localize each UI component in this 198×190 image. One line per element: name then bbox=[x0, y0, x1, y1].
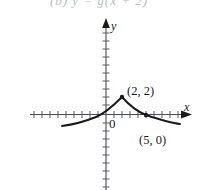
point-label-peak: (2, 2) bbox=[127, 85, 154, 98]
graph-canvas bbox=[0, 0, 198, 190]
y-axis-label: y bbox=[111, 20, 116, 32]
x-axis-label: x bbox=[184, 101, 189, 113]
point-marker-peak bbox=[120, 95, 124, 99]
y-axis-arrowhead bbox=[102, 18, 110, 28]
origin-label: 0 bbox=[109, 117, 116, 130]
point-marker-root bbox=[144, 113, 148, 117]
curve-right-branch bbox=[122, 97, 180, 124]
point-label-root: (5, 0) bbox=[139, 134, 166, 147]
figure-panel: (b) y = g(x + 2) bbox=[0, 0, 198, 190]
